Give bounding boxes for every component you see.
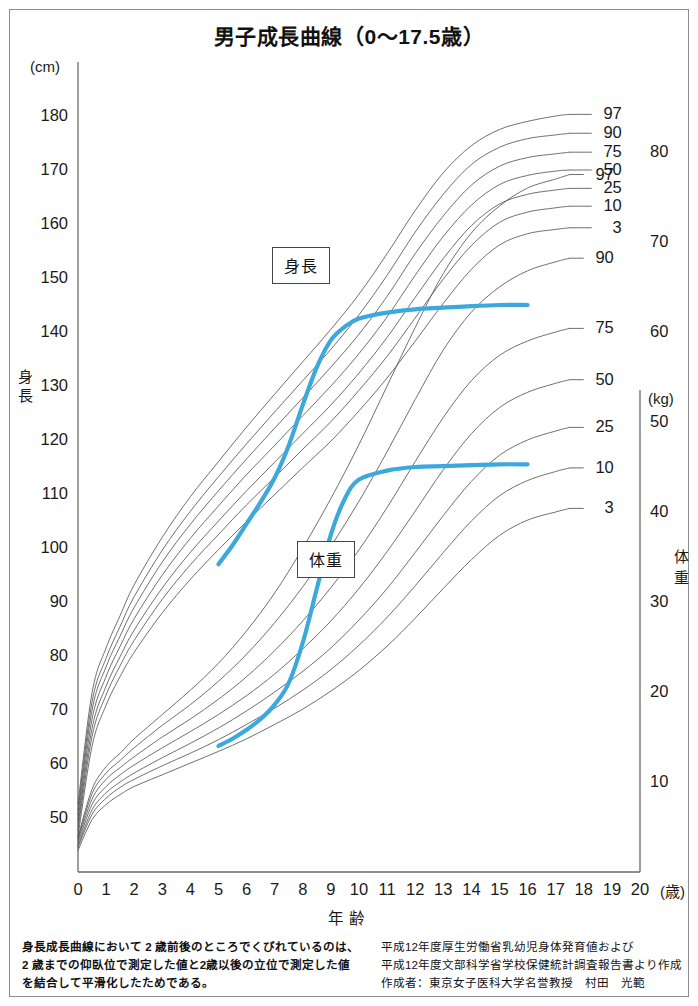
x-axis-tick-18: 18	[569, 880, 599, 899]
right-caption-char: 体	[672, 546, 690, 567]
height-percentile-curves	[78, 114, 570, 836]
patient-height-curve	[219, 305, 528, 564]
x-axis-tick-9: 9	[316, 880, 346, 899]
footnote-left-line: 2 歳までの仰臥位で測定した値と2歳以後の立位で測定した値	[22, 956, 372, 974]
height-percentile-label-3: 3	[596, 218, 622, 237]
right-axis-caption: 体重	[672, 546, 690, 588]
right-axis-tick-30: 30	[650, 592, 692, 611]
x-axis-tick-14: 14	[456, 880, 486, 899]
x-axis-unit: (歳)	[660, 880, 685, 901]
height-percentile-label-97: 97	[596, 104, 622, 123]
left-axis-tick-140: 140	[22, 322, 68, 341]
x-axis-tick-6: 6	[232, 880, 262, 899]
left-axis-tick-100: 100	[22, 538, 68, 557]
footnote-left: 身長成長曲線において 2 歳前後のところでくびれているのは、2 歳までの仰臥位で…	[22, 938, 372, 992]
x-axis-tick-2: 2	[119, 880, 149, 899]
left-axis-tick-150: 150	[22, 268, 68, 287]
x-axis-tick-17: 17	[541, 880, 571, 899]
left-axis-tick-60: 60	[22, 754, 68, 773]
right-axis-unit: (kg)	[648, 390, 674, 407]
footnote-right: 平成12年度厚生労働省乳幼児身体発育値および平成12年度文部科学省学校保健統計調…	[381, 938, 691, 992]
x-axis-tick-5: 5	[204, 880, 234, 899]
left-axis-tick-180: 180	[22, 106, 68, 125]
left-axis-tick-80: 80	[22, 646, 68, 665]
x-axis-tick-8: 8	[288, 880, 318, 899]
percentile-curve	[78, 427, 570, 846]
x-axis-tick-7: 7	[260, 880, 290, 899]
right-axis-tick-10: 10	[650, 772, 692, 791]
left-axis-tick-160: 160	[22, 214, 68, 233]
x-axis-tick-20: 20	[625, 880, 655, 899]
footnote-left-line: 身長成長曲線において 2 歳前後のところでくびれているのは、	[22, 938, 372, 956]
weight-percentile-label-3: 3	[588, 498, 614, 517]
footnote-right-line: 作成者：東京女子医科大学名誉教授 村田 光範	[381, 974, 691, 992]
left-axis-tick-170: 170	[22, 160, 68, 179]
percentile-curve	[78, 133, 570, 810]
weight-percentile-label-97: 97	[588, 165, 614, 184]
growth-chart-page: 男子成長曲線（0〜17.5歳） (cm) (kg) 身長 体重 18017016…	[0, 0, 698, 1006]
right-axis-tick-60: 60	[650, 322, 692, 341]
x-axis-tick-13: 13	[428, 880, 458, 899]
weight-percentile-label-50: 50	[588, 370, 614, 389]
left-axis-tick-130: 130	[22, 376, 68, 395]
weight-percentile-label-75: 75	[588, 318, 614, 337]
weight-series-label: 体重	[297, 541, 355, 578]
axis-lines	[78, 62, 640, 872]
x-axis-tick-3: 3	[147, 880, 177, 899]
x-axis-tick-19: 19	[597, 880, 627, 899]
x-axis-tick-11: 11	[372, 880, 402, 899]
percentile-curve	[78, 206, 570, 830]
left-axis-tick-120: 120	[22, 430, 68, 449]
x-axis-tick-16: 16	[513, 880, 543, 899]
left-axis-tick-90: 90	[22, 592, 68, 611]
weight-percentile-label-10: 10	[588, 458, 614, 477]
percentile-curve	[78, 228, 570, 837]
footnote-left-line: を結合して平滑化したためである。	[22, 974, 372, 992]
right-axis-tick-70: 70	[650, 232, 692, 251]
right-caption-char: 重	[672, 567, 690, 588]
left-axis-tick-110: 110	[22, 484, 68, 503]
right-axis-tick-20: 20	[650, 682, 692, 701]
left-axis-tick-50: 50	[22, 808, 68, 827]
x-axis-tick-0: 0	[63, 880, 93, 899]
weight-percentile-label-90: 90	[588, 248, 614, 267]
x-axis-tick-1: 1	[91, 880, 121, 899]
weight-percentile-label-25: 25	[588, 417, 614, 436]
height-series-label: 身長	[272, 247, 330, 284]
percentile-curve	[78, 468, 570, 848]
x-axis-tick-15: 15	[485, 880, 515, 899]
height-percentile-label-90: 90	[596, 123, 622, 142]
right-axis-tick-40: 40	[650, 502, 692, 521]
right-axis-tick-80: 80	[650, 142, 692, 161]
percentile-curve	[78, 114, 570, 804]
height-percentile-label-75: 75	[596, 142, 622, 161]
left-axis-unit: (cm)	[30, 58, 60, 75]
x-axis-tick-4: 4	[175, 880, 205, 899]
percentile-curve	[78, 380, 570, 844]
height-percentile-label-10: 10	[596, 196, 622, 215]
right-axis-tick-50: 50	[650, 412, 692, 431]
x-axis-tick-10: 10	[344, 880, 374, 899]
x-axis-title: 年齢	[0, 906, 698, 928]
x-axis-tick-12: 12	[400, 880, 430, 899]
left-axis-tick-70: 70	[22, 700, 68, 719]
footnote-right-line: 平成12年度厚生労働省乳幼児身体発育値および	[381, 938, 691, 956]
footnote-right-line: 平成12年度文部科学省学校保健統計調査報告書より作成	[381, 956, 691, 974]
